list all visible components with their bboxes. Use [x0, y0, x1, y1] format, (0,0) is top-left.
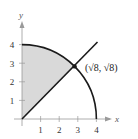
x-axis-arrow-icon: [105, 117, 112, 122]
x-tick-label-2: 2: [57, 125, 62, 135]
x-tick-label-4: 4: [94, 125, 99, 135]
y-tick-label-3: 3: [10, 59, 15, 69]
y-axis-arrow-icon: [20, 21, 25, 28]
intersection-point-label: (√8, √8): [85, 62, 118, 74]
x-axis-label: x: [114, 114, 119, 124]
region-diagram: 1 2 3 4 1 2 3 4 x y (√8, √8): [0, 0, 138, 139]
intersection-point: [72, 64, 76, 68]
x-tick-label-1: 1: [38, 125, 43, 135]
y-tick-label-2: 2: [10, 77, 15, 87]
y-tick-label-1: 1: [10, 96, 15, 106]
x-tick-label-3: 3: [76, 125, 81, 135]
y-tick-label-4: 4: [10, 40, 15, 50]
y-axis-label: y: [18, 10, 23, 20]
shaded-region: [22, 45, 75, 119]
